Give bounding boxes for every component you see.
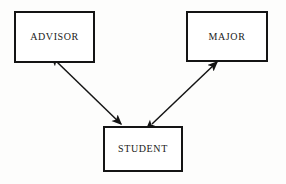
relationship-advisor-student — [57, 62, 121, 124]
entity-label-advisor: ADVISOR — [30, 32, 79, 42]
entity-box-major[interactable]: MAJOR — [186, 11, 268, 62]
entity-box-student[interactable]: STUDENT — [103, 126, 183, 172]
relationship-major-student — [152, 62, 217, 124]
diagram-canvas: ADVISOR MAJOR STUDENT — [0, 0, 286, 184]
entity-box-advisor[interactable]: ADVISOR — [14, 11, 95, 63]
entity-label-student: STUDENT — [118, 144, 168, 154]
entity-label-major: MAJOR — [209, 32, 246, 42]
